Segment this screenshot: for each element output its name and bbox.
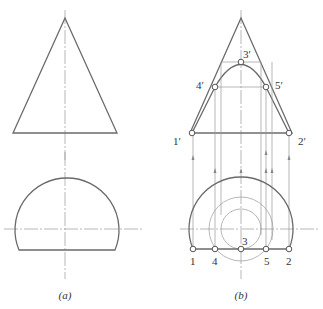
label-5: 5: [264, 255, 270, 267]
point-3: [238, 246, 244, 252]
caption-b: (b): [235, 289, 248, 302]
figure-b: 3′ 4′ 5′ 1′ 2′ 1 4 3 5 2 (b): [173, 10, 318, 302]
point-4prime: [212, 84, 218, 90]
figure-a: (a): [4, 10, 143, 302]
point-3prime: [238, 59, 244, 65]
point-2: [286, 246, 292, 252]
point-5prime: [263, 84, 269, 90]
point-1prime: [189, 130, 195, 136]
label-1: 1: [190, 255, 196, 267]
point-5: [263, 246, 269, 252]
label-1prime: 1′: [173, 135, 181, 147]
point-2prime: [286, 130, 292, 136]
label-4: 4: [212, 255, 218, 267]
caption-a: (a): [59, 289, 72, 302]
cone-top-view-a: [15, 178, 119, 250]
label-3: 3: [242, 235, 248, 247]
point-4: [212, 246, 218, 252]
label-3prime: 3′: [243, 48, 251, 60]
section-curve-front-b: [192, 65, 289, 134]
label-4prime: 4′: [196, 79, 204, 91]
diagram-canvas: (a): [0, 0, 323, 309]
label-2: 2: [286, 255, 292, 267]
label-2prime: 2′: [298, 135, 306, 147]
point-1: [190, 246, 196, 252]
label-5prime: 5′: [275, 79, 283, 91]
